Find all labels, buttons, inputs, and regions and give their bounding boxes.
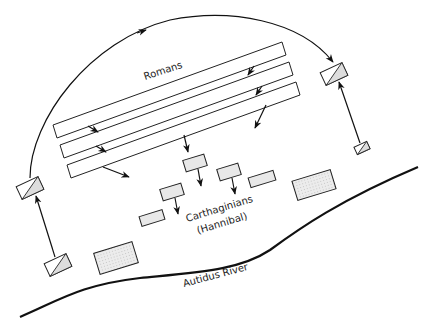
roman-arrow-icon <box>96 146 106 152</box>
roman-arrow-icon <box>88 126 98 132</box>
roman-arrow-icon <box>103 167 129 177</box>
carthaginian-arrow-icon <box>175 198 178 214</box>
carthaginian-unit <box>248 170 276 187</box>
carthaginian-unit <box>183 154 208 172</box>
carthaginian-arrow-icon <box>198 169 201 186</box>
romans-label: Romans <box>142 59 183 82</box>
roman-arrow-icon <box>184 135 188 152</box>
carthaginian-unit <box>139 210 165 227</box>
autidus-river <box>20 167 418 317</box>
carthaginian-heavy-unit <box>94 242 139 275</box>
carthaginian-heavy-unit <box>292 170 336 201</box>
carthaginian-unit <box>160 183 185 201</box>
battle-of-cannae-diagram: Romans Carthaginians (Hannibal) <box>0 0 432 331</box>
carthaginian-arrow-icon <box>232 178 235 194</box>
carthaginian-unit <box>217 163 242 181</box>
cavalry-move-arrow-icon <box>36 196 55 257</box>
cavalry-move-arrow-icon <box>339 82 360 143</box>
river-label: Autidus River <box>182 261 250 289</box>
